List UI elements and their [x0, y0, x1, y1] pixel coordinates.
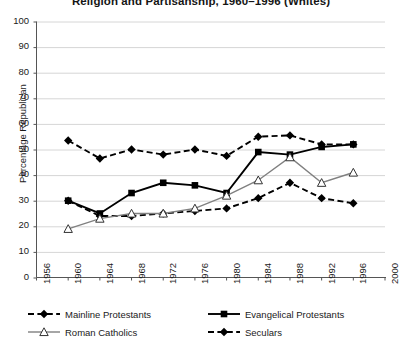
legend-label: Mainline Protestants — [65, 309, 151, 320]
legend-item[interactable]: Roman Catholics — [27, 326, 137, 338]
legend-item[interactable]: Seculars — [207, 326, 282, 338]
data-point — [64, 136, 72, 144]
y-tick-label: 20 — [3, 219, 29, 230]
legend-item[interactable]: Evangelical Protestants — [207, 308, 344, 320]
legend-swatch-triangle-icon — [27, 326, 61, 338]
y-tick-label: 10 — [3, 245, 29, 256]
data-point — [220, 328, 228, 336]
x-tick-label: 1980 — [231, 262, 242, 283]
y-tick-label: 70 — [3, 91, 29, 102]
chart-legend: Mainline ProtestantsEvangelical Protesta… — [27, 308, 397, 344]
legend-label: Evangelical Protestants — [245, 309, 344, 320]
series-1 — [64, 179, 358, 221]
series-3 — [64, 153, 358, 232]
data-point — [221, 311, 228, 318]
data-point — [192, 182, 199, 189]
y-tick-label: 40 — [3, 168, 29, 179]
data-point — [255, 149, 262, 156]
y-tick-label: 0 — [3, 271, 29, 282]
x-tick-label: 1996 — [357, 262, 368, 283]
x-tick-label: 1984 — [262, 262, 273, 283]
x-tick-label: 1968 — [136, 262, 147, 283]
y-tick-label: 30 — [3, 194, 29, 205]
data-point — [286, 131, 294, 139]
y-tick-label: 80 — [3, 66, 29, 77]
data-point — [254, 176, 262, 184]
data-point — [65, 197, 72, 204]
data-point — [96, 154, 104, 162]
data-point — [191, 145, 199, 153]
data-point — [286, 179, 294, 187]
y-tick-label: 50 — [3, 143, 29, 154]
series-line — [68, 135, 353, 158]
x-tick-label: 1964 — [104, 262, 115, 283]
series-line — [68, 157, 353, 229]
x-tick-label: 1992 — [326, 262, 337, 283]
legend-label: Seculars — [245, 327, 282, 338]
legend-label: Roman Catholics — [65, 327, 137, 338]
y-tick-label: 100 — [3, 15, 29, 26]
x-tick-label: 1960 — [72, 262, 83, 283]
data-point — [128, 190, 135, 197]
data-point — [191, 204, 199, 212]
data-point — [222, 204, 230, 212]
data-point — [127, 145, 135, 153]
x-tick-label: 1976 — [199, 262, 210, 283]
legend-item[interactable]: Mainline Protestants — [27, 308, 151, 320]
x-tick-label: 1988 — [294, 262, 305, 283]
data-point — [222, 152, 230, 160]
data-point — [40, 310, 48, 318]
data-point — [254, 133, 262, 141]
x-tick-label: 1972 — [167, 262, 178, 283]
data-point — [349, 168, 357, 176]
series-layer — [64, 131, 358, 232]
legend-swatch-square-icon — [207, 308, 241, 320]
legend-swatch-diamond-icon — [27, 308, 61, 320]
x-tick-label: 2000 — [389, 262, 400, 283]
chart-root: Religion and Partisanship, 1960–1996 (Wh… — [0, 0, 402, 344]
series-line — [68, 183, 353, 216]
y-tick-label: 60 — [3, 117, 29, 128]
x-tick-label: 1956 — [41, 262, 52, 283]
plot-area — [0, 0, 402, 344]
series-4 — [64, 131, 358, 162]
data-point — [160, 179, 167, 186]
data-point — [159, 150, 167, 158]
legend-swatch-diamond-icon — [207, 326, 241, 338]
data-point — [349, 199, 357, 207]
y-tick-label: 90 — [3, 40, 29, 51]
series-2 — [65, 141, 357, 217]
